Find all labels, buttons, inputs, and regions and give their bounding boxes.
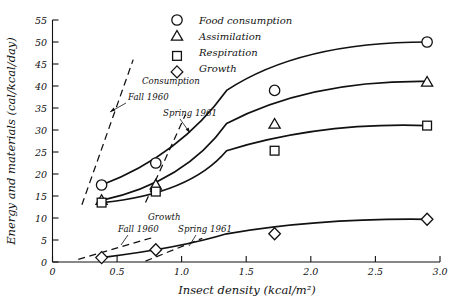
chart-legend: Food consumption Assimilation Respiratio… — [171, 15, 292, 78]
y-tick-label: 45 — [34, 59, 47, 70]
y-tick-label: 50 — [35, 37, 47, 48]
chart-canvas: 0 5 10 15 20 25 30 35 40 45 50 55 0 0.5 … — [0, 0, 461, 300]
triangle-marker-icon — [269, 119, 280, 129]
x-axis-tick-labels: 0 0.5 1.0 1.5 2.0 2.5 3.0 — [49, 266, 447, 277]
annotation-growth-fall: Fall 1960 — [117, 224, 159, 234]
legend-label: Respiration — [198, 47, 258, 58]
y-tick-label: 20 — [34, 169, 47, 180]
y-axis-title: Energy and materials (cal/kcal/day) — [4, 37, 18, 246]
circle-marker-icon — [422, 37, 432, 47]
square-marker-icon — [151, 187, 160, 196]
y-tick-label: 10 — [35, 213, 47, 224]
y-tick-label: 15 — [35, 191, 47, 202]
y-axis-tick-labels: 0 5 10 15 20 25 30 35 40 45 50 55 — [34, 15, 47, 268]
y-tick-label: 0 — [41, 257, 47, 268]
square-marker-icon — [423, 121, 432, 130]
y-axis-ticks — [53, 20, 59, 262]
y-tick-label: 55 — [35, 15, 47, 26]
y-tick-label: 40 — [34, 81, 47, 92]
x-tick-label: 3.0 — [432, 266, 447, 277]
annotation-consumption-group: Consumption — [142, 76, 200, 86]
diamond-marker-icon — [150, 244, 162, 256]
square-marker-icon — [97, 198, 106, 207]
x-axis-title: Insect density (kcal/m²) — [177, 283, 316, 297]
diamond-marker-icon — [269, 228, 281, 240]
x-tick-label: 0.5 — [110, 266, 125, 277]
annotations: Consumption Fall 1960 Spring 1961 Growth… — [110, 76, 232, 246]
annotation-growth-group: Growth — [148, 212, 181, 222]
x-tick-label: 1.5 — [239, 266, 254, 277]
legend-triangle-marker-icon — [171, 31, 182, 41]
y-tick-label: 25 — [34, 147, 47, 158]
y-tick-label: 5 — [41, 235, 47, 246]
markers-food-consumption — [96, 37, 432, 190]
diamond-marker-icon — [421, 213, 433, 225]
annotation-arrow-growth-spring — [189, 235, 196, 246]
annotation-consumption-fall: Fall 1960 — [127, 92, 169, 102]
annotation-growth-spring: Spring 1961 — [178, 224, 232, 234]
markers-growth — [96, 213, 433, 263]
x-tick-label: 2.0 — [302, 266, 318, 277]
circle-marker-icon — [269, 85, 279, 95]
legend-label: Food consumption — [198, 15, 292, 26]
legend-label: Assimilation — [198, 31, 261, 42]
annotation-consumption-spring: Spring 1961 — [163, 108, 217, 118]
circle-marker-icon — [96, 180, 106, 190]
x-tick-label: 1.0 — [174, 266, 189, 277]
legend-square-marker-icon — [173, 52, 182, 61]
annotation-arrow-growth-fall — [121, 235, 128, 245]
chart-figure: 0 5 10 15 20 25 30 35 40 45 50 55 0 0.5 … — [0, 0, 461, 300]
x-tick-label: 0 — [49, 266, 55, 277]
circle-marker-icon — [151, 158, 161, 168]
legend-label: Growth — [199, 63, 237, 74]
square-marker-icon — [270, 146, 279, 155]
y-tick-label: 35 — [35, 103, 47, 114]
y-tick-label: 30 — [35, 125, 47, 136]
x-tick-label: 2.5 — [367, 266, 383, 277]
legend-circle-marker-icon — [172, 15, 182, 25]
